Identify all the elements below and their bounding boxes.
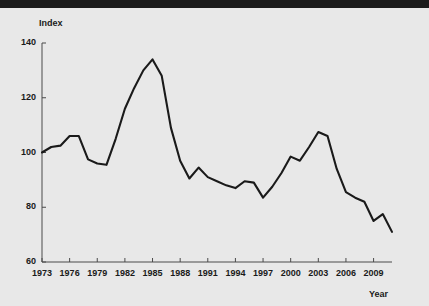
x-tick-label: 1991	[193, 268, 223, 278]
y-tick-label: 80	[14, 201, 36, 211]
chart-axes	[42, 43, 392, 262]
line-chart-plot	[0, 0, 429, 306]
y-tick-label: 140	[14, 37, 36, 47]
chart-figure: Index Year 1401201008060 197319761979198…	[0, 0, 429, 306]
x-tick-label: 1988	[165, 268, 195, 278]
chart-tick-marks	[42, 43, 374, 262]
x-tick-label: 1979	[82, 268, 112, 278]
x-tick-label: 2009	[359, 268, 389, 278]
x-tick-label: 1982	[110, 268, 140, 278]
y-tick-label: 60	[14, 256, 36, 266]
y-tick-label: 100	[14, 147, 36, 157]
x-tick-label: 1997	[248, 268, 278, 278]
x-tick-label: 1976	[55, 268, 85, 278]
x-tick-label: 2003	[303, 268, 333, 278]
x-tick-label: 1985	[138, 268, 168, 278]
x-tick-label: 2006	[331, 268, 361, 278]
index-series-line	[42, 59, 392, 231]
x-tick-label: 1973	[27, 268, 57, 278]
y-tick-label: 120	[14, 92, 36, 102]
x-tick-label: 1994	[220, 268, 250, 278]
x-tick-label: 2000	[276, 268, 306, 278]
